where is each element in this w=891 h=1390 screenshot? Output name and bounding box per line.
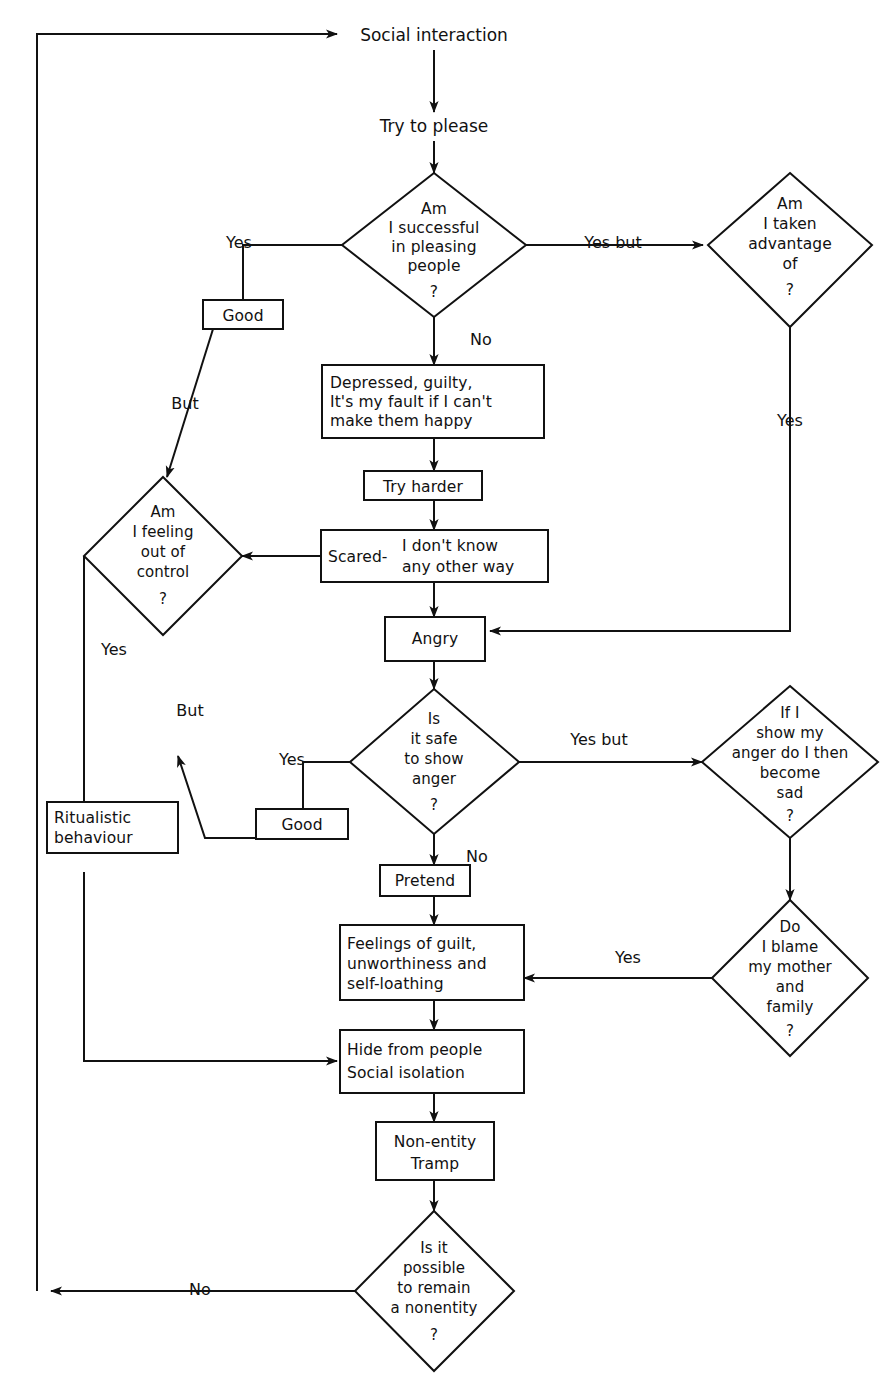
edge-label-yes-but-successful: Yes but — [583, 233, 641, 252]
svg-text:unworthiness and: unworthiness and — [347, 955, 487, 973]
svg-text:to show: to show — [404, 750, 463, 768]
svg-text:Good: Good — [281, 816, 322, 834]
svg-text:Try harder: Try harder — [382, 478, 463, 496]
svg-text:control: control — [137, 563, 190, 581]
svg-text:Angry: Angry — [412, 630, 458, 648]
node-depressed-guilty: Depressed, guilty, It's my fault if I ca… — [322, 365, 544, 438]
svg-text:in pleasing: in pleasing — [391, 238, 476, 256]
svg-text:Hide from people: Hide from people — [347, 1041, 482, 1059]
svg-text:Am: Am — [777, 195, 803, 213]
edge-label-no-safe-anger: No — [466, 847, 488, 866]
svg-text:make them happy: make them happy — [330, 412, 473, 430]
edge-ritualistic-to-hide — [84, 872, 337, 1061]
edge-label-but-good2: But — [176, 701, 203, 720]
svg-text:?: ? — [786, 281, 794, 299]
node-am-i-successful: Am I successful in pleasing people ? — [342, 173, 526, 317]
edge-label-yes-successful: Yes — [225, 233, 252, 252]
node-good-2: Good — [256, 809, 348, 839]
svg-text:self-loathing: self-loathing — [347, 975, 444, 993]
svg-text:my mother: my mother — [748, 958, 832, 976]
svg-text:anger do I then: anger do I then — [732, 744, 849, 762]
svg-text:?: ? — [159, 590, 167, 608]
svg-text:?: ? — [430, 1326, 438, 1344]
svg-text:family: family — [767, 998, 814, 1016]
svg-text:I successful: I successful — [389, 219, 480, 237]
svg-text:Good: Good — [222, 307, 263, 325]
svg-text:sad: sad — [777, 784, 804, 802]
svg-text:any other way: any other way — [402, 558, 514, 576]
svg-text:anger: anger — [412, 770, 457, 788]
svg-text:It's my fault if I can't: It's my fault if I can't — [330, 393, 492, 411]
svg-text:show my: show my — [756, 724, 824, 742]
node-angry: Angry — [385, 617, 485, 661]
node-am-i-feeling-out-of-control: Am I feeling out of control ? — [84, 477, 242, 635]
node-is-it-possible-remain-nonentity: Is it possible to remain a nonentity ? — [355, 1211, 514, 1371]
svg-text:advantage: advantage — [748, 235, 832, 253]
svg-text:Is it: Is it — [420, 1239, 448, 1257]
svg-text:a nonentity: a nonentity — [391, 1299, 478, 1317]
svg-text:If I: If I — [780, 704, 799, 722]
node-non-entity-tramp: Non-entity Tramp — [376, 1122, 494, 1180]
svg-text:I blame: I blame — [762, 938, 819, 956]
node-scared: Scared- I don't know any other way — [321, 530, 548, 582]
node-try-harder: Try harder — [364, 471, 482, 500]
edge-successful-yes-to-good1 — [243, 245, 342, 300]
node-is-it-safe-to-show-anger: Is it safe to show anger ? — [350, 689, 519, 834]
svg-text:?: ? — [786, 807, 794, 825]
node-pretend: Pretend — [380, 865, 470, 896]
svg-text:Tramp: Tramp — [410, 1155, 460, 1173]
node-show-anger-become-sad: If I show my anger do I then become sad … — [702, 686, 878, 838]
edge-label-no-remain-nonentity: No — [189, 1280, 211, 1299]
node-social-interaction: Social interaction — [360, 25, 508, 45]
svg-text:Ritualistic: Ritualistic — [54, 809, 131, 827]
svg-text:?: ? — [430, 796, 438, 814]
node-try-to-please: Try to please — [379, 116, 489, 136]
svg-text:out of: out of — [141, 543, 186, 561]
edge-label-yes-safe-anger: Yes — [278, 750, 305, 769]
svg-text:it safe: it safe — [410, 730, 457, 748]
svg-text:Social isolation: Social isolation — [347, 1064, 465, 1082]
node-am-i-taken-advantage: Am I taken advantage of ? — [708, 173, 872, 327]
svg-text:behaviour: behaviour — [54, 829, 133, 847]
node-do-i-blame-my-mother: Do I blame my mother and family ? — [712, 900, 868, 1056]
svg-text:Pretend: Pretend — [395, 872, 456, 890]
svg-text:Feelings of guilt,: Feelings of guilt, — [347, 935, 476, 953]
svg-text:I feeling: I feeling — [132, 523, 193, 541]
svg-text:possible: possible — [403, 1259, 465, 1277]
edge-label-yes-blame-mother: Yes — [614, 948, 641, 967]
svg-text:Non-entity: Non-entity — [394, 1133, 477, 1151]
svg-text:Do: Do — [780, 918, 801, 936]
svg-text:Scared-: Scared- — [328, 548, 388, 566]
svg-text:to remain: to remain — [397, 1279, 470, 1297]
node-ritualistic-behaviour: Ritualistic behaviour — [47, 802, 178, 853]
node-hide-from-people: Hide from people Social isolation — [340, 1030, 524, 1093]
edge-label-yes-but-safe-anger: Yes but — [569, 730, 627, 749]
svg-text:I don't know: I don't know — [402, 537, 498, 555]
svg-text:and: and — [776, 978, 805, 996]
edge-safe-anger-yes-to-good2 — [303, 762, 350, 809]
svg-text:Am: Am — [150, 503, 175, 521]
svg-text:I taken: I taken — [763, 215, 817, 233]
svg-text:?: ? — [430, 283, 438, 301]
flowchart-svg: Social interaction Try to please Am I su… — [0, 0, 891, 1390]
svg-text:become: become — [760, 764, 821, 782]
flowchart-canvas: Social interaction Try to please Am I su… — [0, 0, 891, 1390]
svg-text:Am: Am — [421, 200, 447, 218]
edge-label-yes-taken-advantage: Yes — [776, 411, 803, 430]
svg-text:Is: Is — [428, 710, 441, 728]
edge-label-yes-out-of-control: Yes — [100, 640, 127, 659]
svg-text:?: ? — [786, 1022, 794, 1040]
svg-text:of: of — [782, 255, 798, 273]
edge-good2-but-to-out-of-control — [178, 756, 256, 838]
edge-label-but-good1: But — [171, 394, 198, 413]
edge-loopback-to-social-interaction — [37, 34, 337, 1291]
svg-text:Depressed, guilty,: Depressed, guilty, — [330, 374, 473, 392]
edge-label-no-successful: No — [470, 330, 492, 349]
node-feelings-of-guilt: Feelings of guilt, unworthiness and self… — [340, 925, 524, 1000]
node-good-1: Good — [203, 300, 283, 329]
svg-text:people: people — [407, 257, 460, 275]
